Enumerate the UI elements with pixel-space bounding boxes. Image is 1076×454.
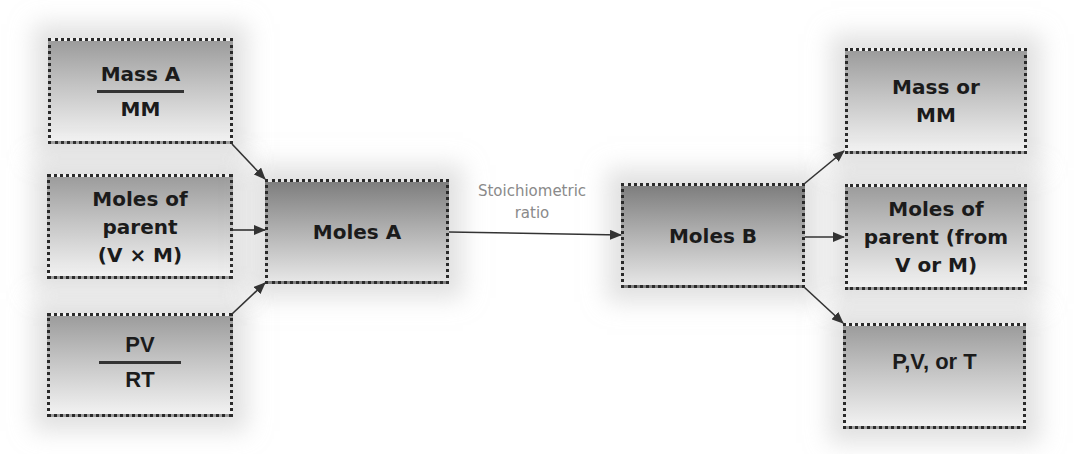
arrow-mass-a-to-moles-a	[232, 144, 265, 179]
arrow-pv-rt-to-moles-a	[232, 283, 265, 314]
arrows-layer	[0, 0, 1076, 454]
arrow-moles-b-to-mass-or-mm	[804, 151, 844, 184]
arrow-moles-b-to-pvt	[804, 287, 843, 323]
arrow-moles-a-to-moles-b	[449, 232, 621, 235]
